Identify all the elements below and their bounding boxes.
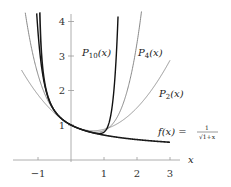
chart-container: −11231234 x P10(x) P4(x) P2(x) f(x) = 1 … (0, 0, 231, 187)
x-tick-label: 3 (167, 168, 173, 179)
curves (22, 11, 171, 142)
y-tick-label: 3 (59, 51, 65, 62)
x-tick-label: −1 (31, 168, 46, 179)
label-f: f(x) = (157, 126, 187, 137)
label-p4: P4(x) (137, 47, 163, 60)
chart-svg: −11231234 x P10(x) P4(x) P2(x) f(x) = 1 … (0, 0, 231, 187)
y-tick-label: 4 (59, 16, 65, 27)
x-tick-label: 2 (134, 168, 140, 179)
label-p10: P10(x) (81, 47, 111, 60)
label-f-denominator: √1+x (199, 133, 216, 140)
axis-ticks: −11231234 (31, 16, 174, 179)
label-p2: P2(x) (158, 88, 184, 101)
p10-curve (37, 13, 118, 133)
x-tick-label: 1 (101, 168, 107, 179)
label-f-numerator: 1 (205, 124, 209, 131)
x-axis-label: x (188, 154, 194, 165)
y-tick-label: 2 (59, 85, 65, 96)
